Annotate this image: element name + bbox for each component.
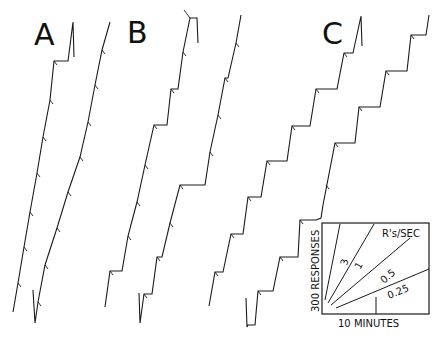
record-b-2 (139, 15, 241, 323)
inset-y-label: 300 RESPONSES (310, 230, 321, 312)
inset-x-label: 10 MINUTES (338, 318, 399, 329)
reinforcement-pips-b (110, 43, 239, 298)
reinforcement-pips-a (18, 50, 105, 306)
stylus-mark-b (184, 10, 190, 18)
rate-unit-label: R's/SEC (382, 228, 420, 239)
record-b-1 (105, 18, 198, 307)
panel-b-records (105, 10, 241, 323)
panel-label-c: C (322, 19, 343, 49)
panel-label-b: B (127, 18, 148, 48)
panel-a-records (13, 22, 110, 323)
record-a-1 (13, 22, 74, 312)
record-a-2 (33, 22, 110, 323)
rate-scale-inset: 3 1 0.5 0.25 R's/SEC 300 RESPONSES 10 MI… (310, 223, 429, 329)
panel-label-a: A (34, 20, 55, 50)
cumulative-record-figure: 3 1 0.5 0.25 R's/SEC 300 RESPONSES 10 MI… (0, 0, 443, 338)
records-canvas: 3 1 0.5 0.25 R's/SEC 300 RESPONSES 10 MI… (0, 0, 443, 338)
